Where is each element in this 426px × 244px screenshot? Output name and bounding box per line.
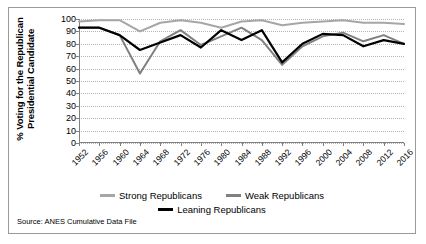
y-axis-title-line-2: Presidential Candidate bbox=[25, 29, 36, 129]
x-axis-tick-label: 1964 bbox=[130, 147, 151, 168]
x-axis-tick-mark bbox=[120, 143, 121, 146]
y-axis-tick-mark bbox=[76, 31, 79, 32]
chart-legend: Strong Republicans Weak Republicans Lean… bbox=[9, 190, 415, 215]
x-axis-tick-label: 2004 bbox=[334, 147, 355, 168]
legend-row-1: Strong Republicans Weak Republicans bbox=[100, 190, 324, 201]
x-axis-tick-mark bbox=[384, 143, 385, 146]
x-axis-tick-label: 1972 bbox=[171, 147, 192, 168]
y-axis-tick-mark bbox=[76, 81, 79, 82]
x-axis-tick-label: 2000 bbox=[313, 147, 334, 168]
x-axis-tick-label: 1976 bbox=[191, 147, 212, 168]
y-axis-tick-label: 70 bbox=[66, 51, 76, 61]
y-axis-tick-label: 30 bbox=[66, 101, 76, 111]
x-axis-tick-label: 1992 bbox=[273, 147, 294, 168]
legend-label-strong-republicans: Strong Republicans bbox=[119, 190, 202, 201]
y-axis-tick-label: 20 bbox=[66, 113, 76, 123]
legend-label-leaning-republicans: Leaning Republicans bbox=[177, 204, 266, 215]
y-axis-tick-label: 10 bbox=[66, 126, 76, 136]
x-axis-tick-label: 1952 bbox=[69, 147, 90, 168]
series-line-leaning-republicans bbox=[79, 28, 404, 63]
y-axis-tick-label: 100 bbox=[61, 14, 76, 24]
x-axis-tick-mark bbox=[363, 143, 364, 146]
y-axis-tick-label: 80 bbox=[66, 39, 76, 49]
x-axis-tick-label: 1968 bbox=[151, 147, 172, 168]
y-axis-title-line-1: % Voting for the Republican bbox=[14, 17, 25, 140]
y-axis-tick-mark bbox=[76, 93, 79, 94]
y-axis-tick-mark bbox=[76, 69, 79, 70]
x-axis-tick-label: 2012 bbox=[374, 147, 395, 168]
x-axis-tick-label: 2016 bbox=[394, 147, 415, 168]
y-axis-title: % Voting for the Republican Presidential… bbox=[8, 0, 42, 169]
y-axis-tick-label: 60 bbox=[66, 64, 76, 74]
y-axis-tick-mark bbox=[76, 44, 79, 45]
x-axis-tick-mark bbox=[302, 143, 303, 146]
x-axis-tick-mark bbox=[160, 143, 161, 146]
chart-figure: % Voting for the Republican Presidential… bbox=[8, 7, 416, 234]
x-axis-tick-label: 1984 bbox=[232, 147, 253, 168]
series-line-weak-republicans bbox=[79, 28, 404, 74]
legend-row-2: Leaning Republicans bbox=[158, 204, 266, 215]
y-axis-tick-label: 50 bbox=[66, 76, 76, 86]
x-axis-tick-label: 1956 bbox=[90, 147, 111, 168]
x-axis-tick-label: 1988 bbox=[252, 147, 273, 168]
x-axis-tick-mark bbox=[201, 143, 202, 146]
plot-area: 1009080706050403020100195219561960196419… bbox=[79, 19, 404, 143]
x-axis-tick-mark bbox=[79, 143, 80, 146]
y-axis-tick-mark bbox=[76, 56, 79, 57]
x-axis-tick-mark bbox=[221, 143, 222, 146]
y-axis-tick-mark bbox=[76, 131, 79, 132]
legend-item-weak-republicans: Weak Republicans bbox=[226, 190, 324, 201]
y-axis-tick-label: 40 bbox=[66, 88, 76, 98]
y-axis-tick-label: 90 bbox=[66, 26, 76, 36]
y-axis-tick-mark bbox=[76, 19, 79, 20]
x-axis-tick-mark bbox=[181, 143, 182, 146]
x-axis-tick-mark bbox=[99, 143, 100, 146]
x-axis-tick-label: 1960 bbox=[110, 147, 131, 168]
x-axis-tick-mark bbox=[282, 143, 283, 146]
series-line-strong-republicans bbox=[79, 20, 404, 31]
y-axis-tick-mark bbox=[76, 106, 79, 107]
legend-swatch-leaning-republicans bbox=[158, 208, 173, 211]
x-axis-tick-mark bbox=[323, 143, 324, 146]
legend-item-leaning-republicans: Leaning Republicans bbox=[158, 204, 266, 215]
x-axis-tick-mark bbox=[262, 143, 263, 146]
legend-label-weak-republicans: Weak Republicans bbox=[245, 190, 324, 201]
x-axis-tick-mark bbox=[140, 143, 141, 146]
x-axis-tick-mark bbox=[242, 143, 243, 146]
legend-swatch-strong-republicans bbox=[100, 194, 115, 197]
legend-item-strong-republicans: Strong Republicans bbox=[100, 190, 202, 201]
x-axis-tick-mark bbox=[343, 143, 344, 146]
x-axis-tick-label: 1996 bbox=[293, 147, 314, 168]
x-axis-tick-label: 1980 bbox=[212, 147, 233, 168]
source-caption: Source: ANES Cumulative Data File bbox=[17, 217, 137, 226]
x-axis-tick-mark bbox=[404, 143, 405, 146]
legend-swatch-weak-republicans bbox=[226, 194, 241, 197]
series-lines bbox=[79, 19, 404, 143]
y-axis-tick-mark bbox=[76, 118, 79, 119]
x-axis-tick-label: 2008 bbox=[354, 147, 375, 168]
